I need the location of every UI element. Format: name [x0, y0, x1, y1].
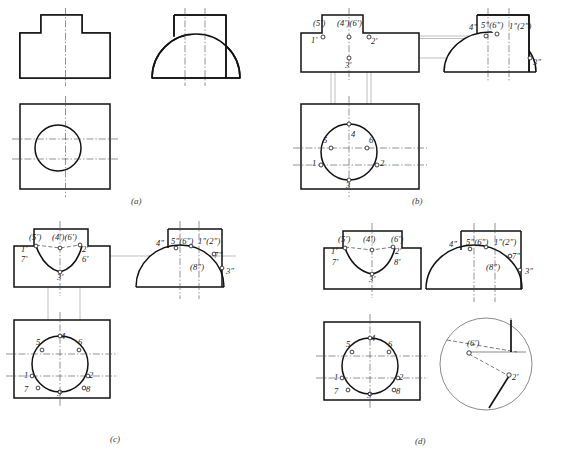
label-b-top-6: 6	[369, 135, 373, 145]
label-c-7prime: 7'	[21, 254, 27, 264]
label-c-4dbl: 4"	[156, 238, 164, 248]
panel-d: (5') (4') (6') 1' 7' 2' 8' 3' 4" 5"(6") …	[281, 212, 562, 455]
point-4-dblprime	[484, 34, 488, 38]
label-c-7dbl: 7"	[214, 250, 222, 260]
label-b-46prime: (4')(6')	[337, 18, 362, 28]
label-d-top-7: 7	[334, 386, 338, 396]
detail-point-2prime	[507, 373, 511, 377]
label-d-7prime: 7'	[332, 257, 338, 267]
label-c-top-2: 2	[89, 370, 93, 380]
detail-point-6prime	[467, 351, 471, 355]
panel-a-front-view	[20, 8, 110, 86]
point-1-prime	[321, 35, 325, 39]
panel-b-drawing	[281, 0, 562, 212]
label-c-56dbl: 5"(6")	[171, 236, 194, 246]
label-c-46prime: (4')(6')	[52, 232, 77, 242]
label-b-12dbl: 1"(2")	[509, 21, 532, 31]
panel-c: (5') (4')(6') 1' 7' 2' 6' 3' 4" 5"(6") 1…	[0, 212, 281, 455]
label-c-top-4: 4	[61, 331, 65, 341]
label-d-top-4: 4	[371, 333, 375, 343]
panel-b-caption: (b)	[412, 196, 423, 206]
label-b-3dbl: 3"	[533, 57, 541, 67]
panel-c-caption: (c)	[110, 434, 120, 444]
label-b-56dbl: 5"(6")	[481, 20, 504, 30]
panel-d-caption: (d)	[415, 436, 426, 446]
label-d-detail-2prime: 2'	[512, 372, 518, 382]
label-c-2prime: 2'	[82, 244, 88, 254]
panel-d-drawing	[281, 212, 562, 455]
label-b-top-2: 2	[380, 158, 384, 168]
point-5-6-dblprime	[495, 32, 499, 36]
panel-d-side-view	[426, 223, 522, 302]
label-d-8prime: 8'	[394, 257, 400, 267]
point-3-dblprime	[528, 56, 532, 60]
label-c-top-8: 8	[86, 384, 90, 394]
label-c-top-7: 7	[24, 384, 28, 394]
label-b-top-4: 4	[351, 129, 355, 139]
label-c-top-5: 5	[36, 337, 40, 347]
label-d-7dbl: 7"	[512, 251, 520, 261]
label-b-5prime: (5')	[313, 18, 326, 28]
point-6	[365, 146, 369, 150]
label-d-56dbl: 5"(6")	[466, 237, 489, 247]
label-d-4prime: (4')	[363, 234, 376, 244]
label-d-3dbl: 3"	[525, 266, 533, 276]
label-b-3prime: 3'	[345, 60, 351, 70]
panel-c-top-view	[6, 312, 118, 406]
label-b-top-3: 3	[346, 180, 350, 190]
label-c-6prime-low: 6'	[82, 254, 88, 264]
point-5	[329, 146, 333, 150]
label-c-1prime: 1'	[21, 244, 27, 254]
label-d-5prime: (5')	[338, 234, 351, 244]
label-d-1prime: 1'	[331, 246, 337, 256]
label-d-top-5: 5	[346, 339, 350, 349]
point-1	[319, 163, 323, 167]
label-d-top-1: 1	[334, 372, 338, 382]
label-b-1prime: 1'	[311, 35, 317, 45]
label-b-top-1: 1	[312, 158, 316, 168]
label-c-3prime: 3'	[57, 272, 63, 282]
label-b-4dbl: 4"	[469, 22, 477, 32]
point-4-6-prime	[347, 35, 351, 39]
label-c-3dbl: 3"	[226, 266, 234, 276]
panel-a: (a)	[0, 0, 281, 212]
label-d-detail-6prime: (6')	[467, 338, 480, 348]
panel-d-detail-view	[440, 318, 532, 410]
label-c-top-1: 1	[24, 370, 28, 380]
point-2	[375, 163, 379, 167]
label-c-8dbl: (8")	[190, 262, 204, 272]
label-b-2prime: 2'	[371, 36, 377, 46]
label-c-12dbl: 1"(2")	[198, 236, 221, 246]
panel-a-top-view	[12, 96, 118, 197]
panel-a-caption: (a)	[131, 196, 142, 206]
label-d-4dbl: 4"	[449, 239, 457, 249]
panel-d-top-view	[316, 314, 428, 408]
label-c-top-3: 3	[57, 388, 61, 398]
panel-b: (5') (4')(6') 1' 2' 3' 4" 5"(6") 1"(2") …	[281, 0, 562, 212]
label-d-2prime: 2'	[395, 246, 401, 256]
label-d-top-2: 2	[399, 372, 403, 382]
label-d-top-8: 8	[396, 386, 400, 396]
label-d-8dbl: (8")	[486, 262, 500, 272]
panel-b-top-view	[293, 96, 427, 197]
label-c-top-6: 6	[78, 337, 82, 347]
panel-c-drawing	[0, 212, 281, 455]
label-c-5prime: (5')	[29, 232, 42, 242]
label-d-6prime: (6')	[391, 234, 404, 244]
label-b-top-5: 5	[323, 135, 327, 145]
label-d-12dbl: 1"(2")	[494, 237, 517, 247]
panel-a-drawing	[0, 0, 281, 212]
label-d-top-3: 3	[367, 390, 371, 400]
panel-c-side-view	[136, 221, 224, 299]
panel-a-side-view	[152, 8, 240, 86]
label-d-3prime: 3'	[369, 274, 375, 284]
point-4	[347, 122, 351, 126]
label-d-top-6: 6	[388, 339, 392, 349]
